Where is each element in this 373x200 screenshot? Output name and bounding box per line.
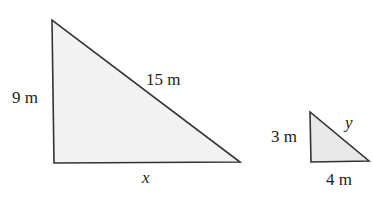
small-base-label: 4 m <box>326 170 352 189</box>
small-vertical-label: 3 m <box>271 127 297 146</box>
small-hypotenuse-label: y <box>343 113 353 132</box>
large-base-label: x <box>141 168 150 187</box>
large-vertical-label: 9 m <box>12 88 38 107</box>
large-hypotenuse-label: 15 m <box>146 70 180 89</box>
similar-triangles-diagram: 9 m 15 m x 3 m y 4 m <box>0 0 373 200</box>
small-triangle <box>310 112 369 162</box>
large-triangle <box>52 20 240 163</box>
